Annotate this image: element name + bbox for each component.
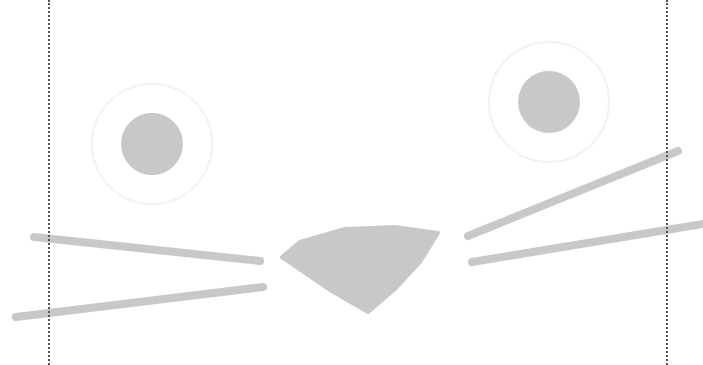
- left-eye-pupil: [121, 113, 183, 175]
- nose-shape: [282, 227, 438, 312]
- whisker-right-upper: [468, 151, 678, 236]
- left-dotted-guide-line: [48, 0, 50, 365]
- right-eye: [489, 42, 609, 162]
- cat-face-drawing: [0, 0, 703, 365]
- right-dotted-guide-line: [666, 0, 668, 365]
- whisker-left-upper: [34, 237, 260, 261]
- whisker-left-lower: [16, 287, 263, 317]
- right-eye-pupil: [518, 71, 580, 133]
- left-eye: [92, 84, 212, 204]
- cat-face-illustration: [0, 0, 703, 365]
- whisker-right-lower: [472, 224, 703, 262]
